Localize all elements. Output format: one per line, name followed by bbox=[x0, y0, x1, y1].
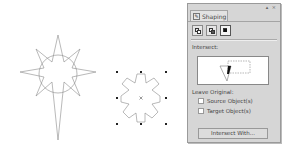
source-objects-checkbox[interactable] bbox=[198, 98, 204, 104]
docker-window-buttons[interactable]: ▴ × bbox=[266, 4, 277, 10]
tab-label: Shaping bbox=[202, 13, 226, 20]
target-objects-checkbox[interactable] bbox=[198, 108, 204, 114]
tab-shaping[interactable]: ✎ Shaping bbox=[190, 10, 228, 21]
section-divider bbox=[191, 39, 277, 41]
intersect-with-button[interactable]: Intersect With... bbox=[198, 128, 268, 139]
weld-button[interactable] bbox=[192, 25, 203, 36]
selection-handles[interactable] bbox=[116, 71, 167, 125]
star-shape[interactable] bbox=[20, 35, 96, 140]
canvas-drawing bbox=[0, 0, 186, 152]
center-marker-icon bbox=[140, 97, 143, 100]
shaping-icon: ✎ bbox=[193, 13, 200, 20]
tab-divider bbox=[188, 21, 280, 22]
section-label: Intersect: bbox=[192, 44, 218, 50]
intersect-button[interactable] bbox=[220, 25, 231, 36]
intersect-result-shape[interactable] bbox=[121, 74, 160, 122]
trim-button[interactable] bbox=[206, 25, 217, 36]
shaping-toolbar bbox=[192, 25, 231, 36]
shaping-docker: ▴ × ✎ Shaping Intersect: bbox=[187, 3, 281, 143]
intersect-preview bbox=[197, 56, 269, 85]
source-objects-label: Source Object(s) bbox=[207, 98, 253, 104]
drawing-canvas[interactable] bbox=[0, 0, 186, 152]
leave-original-label: Leave Original: bbox=[192, 89, 233, 95]
target-objects-label: Target Object(s) bbox=[207, 108, 251, 114]
preview-illustration bbox=[198, 57, 268, 84]
